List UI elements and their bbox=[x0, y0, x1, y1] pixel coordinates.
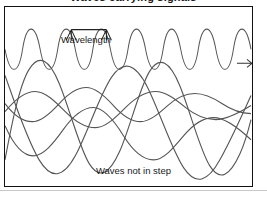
wave-path-very-long-2 bbox=[5, 66, 251, 179]
figure-frame: Wavelength Waves not in step bbox=[4, 6, 253, 187]
wave-path-medium-a bbox=[5, 91, 251, 127]
wave-path-high-frequency bbox=[5, 29, 251, 69]
wavelength-label: Wavelength bbox=[61, 34, 111, 45]
wave-path-long bbox=[5, 108, 251, 160]
wave-plot bbox=[5, 7, 252, 186]
figure-root: Waves carrying signals Wav bbox=[0, 0, 267, 203]
figure-title: Waves carrying signals bbox=[0, 0, 267, 3]
wave-arrowhead-right bbox=[237, 59, 252, 67]
caption-label: Waves not in step bbox=[5, 165, 253, 176]
bottom-divider bbox=[0, 190, 267, 191]
